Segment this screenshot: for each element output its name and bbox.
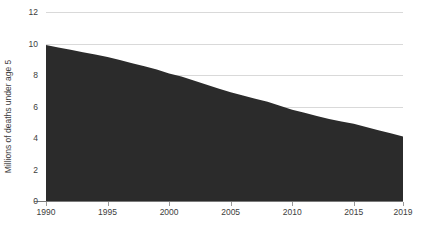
x-tick-label-1995: 1995 [98,207,117,217]
y-tick-label-0: 0 [33,196,38,206]
x-tick-label-2000: 2000 [160,207,179,217]
y-tick-label-12: 12 [29,7,39,17]
x-tick-label-1990: 1990 [37,207,56,217]
y-tick-label-10: 10 [29,39,39,49]
x-tick-label-2005: 2005 [221,207,240,217]
y-tick-label-8: 8 [33,70,38,80]
y-axis-title-text: Millions of deaths under age 5 [3,60,13,174]
chart-container: 024681012 1990199520002005201020152019 M… [0,0,425,232]
y-axis-title: Millions of deaths under age 5 [3,60,13,174]
area-chart: 024681012 1990199520002005201020152019 M… [0,0,425,232]
x-tick-label-2019: 2019 [394,207,413,217]
x-tick-label-2010: 2010 [283,207,302,217]
x-tick-label-2015: 2015 [344,207,363,217]
y-tick-label-4: 4 [33,133,38,143]
y-tick-label-2: 2 [33,165,38,175]
y-tick-label-6: 6 [33,102,38,112]
